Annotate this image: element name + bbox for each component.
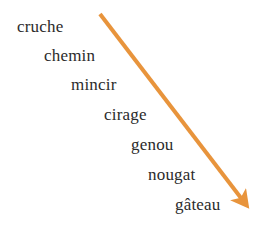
word-staircase-figure: cruche chemin mincir cirage genou nougat…	[0, 0, 258, 236]
word-item-4: cirage	[104, 106, 147, 123]
word-item-5: genou	[131, 136, 174, 153]
word-item-2: chemin	[44, 47, 95, 64]
word-item-7: gâteau	[175, 196, 221, 213]
word-item-1: cruche	[17, 18, 64, 35]
word-item-6: nougat	[148, 166, 195, 183]
word-item-3: mincir	[71, 76, 117, 93]
